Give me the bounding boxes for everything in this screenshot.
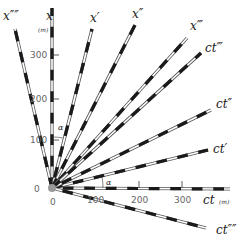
angle-alpha-label: α — [106, 178, 112, 187]
axis-ct-triple-prime — [52, 53, 201, 188]
axis-unit-x: (m) — [38, 26, 49, 33]
axis-label-ct-triple-prime: ct‴ — [205, 41, 224, 55]
angle-arc-x — [52, 137, 63, 138]
axis-ct-prime — [52, 150, 208, 188]
axis-label-x: x — [46, 9, 53, 23]
axis-label-ct-prime: ct′ — [213, 142, 228, 156]
axis-ct-double-prime — [52, 110, 211, 188]
x-tick-label: 100 — [30, 135, 47, 145]
axis-label-ct-quad-prime: ct″″ — [216, 223, 237, 237]
ct-zero-label: 0 — [50, 197, 56, 207]
axis-label-ct-double-prime: ct″ — [216, 97, 233, 111]
x-zero-label: 0 — [34, 184, 40, 194]
x-tick-label: 300 — [30, 50, 47, 60]
ct-tick-label: 300 — [174, 195, 191, 205]
angle-alpha-label: α — [58, 123, 64, 132]
axis-ct-quad-prime — [52, 188, 206, 228]
axis-label-x-quad-prime: x″″ — [3, 9, 19, 23]
axis-unit-ct: (m) — [219, 198, 230, 205]
ct-tick-label: 100 — [87, 195, 104, 205]
axes-layer — [15, 8, 230, 228]
angle-arc-ct — [102, 177, 103, 188]
origin-dot — [48, 184, 56, 192]
axis-label-ct: ct — [203, 193, 215, 207]
axis-ct — [52, 188, 230, 189]
x-tick-label: 200 — [30, 94, 47, 104]
axis-label-x-double-prime: x″ — [132, 7, 144, 21]
axis-x-double-prime — [52, 25, 135, 188]
spacetime-diagram: 0 0 x(m)x′x″x‴x″″ct(m)ct′ct″ct‴ct″″10020… — [0, 0, 241, 239]
ct-tick-label: 200 — [131, 195, 148, 205]
axis-label-x-prime: x′ — [90, 11, 100, 25]
axis-label-x-triple-prime: x‴ — [190, 19, 204, 33]
